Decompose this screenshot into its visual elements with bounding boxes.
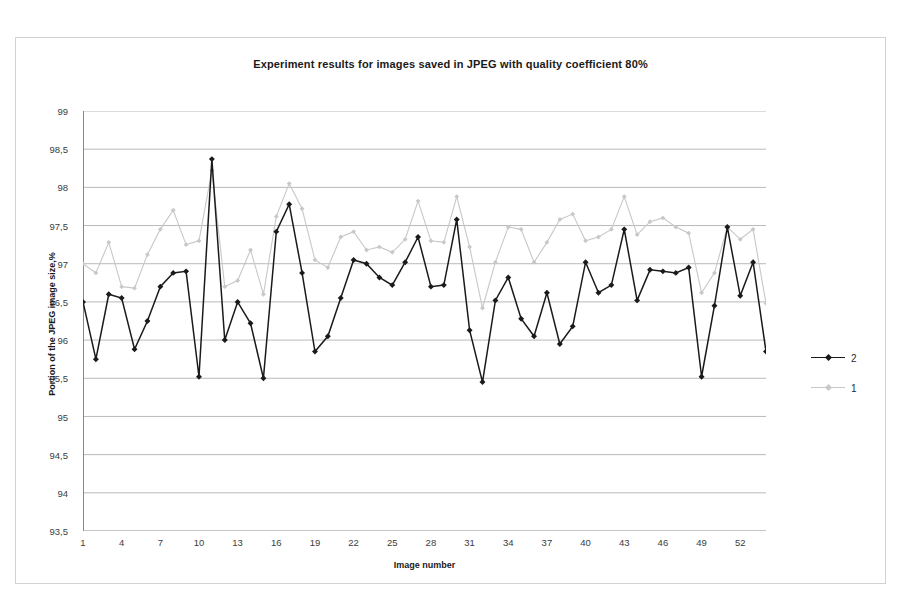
data-point [300, 206, 305, 211]
x-axis-title: Image number [83, 560, 766, 570]
data-point [235, 278, 240, 283]
data-point [441, 240, 446, 245]
chart-frame: Experiment results for images saved in J… [15, 37, 886, 584]
plot-area [83, 111, 766, 531]
x-tick-label: 7 [158, 537, 163, 548]
y-tick-label: 96 [57, 335, 68, 346]
data-point [106, 291, 112, 297]
data-point [106, 240, 111, 245]
data-point [132, 346, 138, 352]
data-point [467, 245, 472, 250]
x-tick-label: 28 [426, 537, 437, 548]
data-point [222, 284, 227, 289]
data-point [647, 267, 653, 273]
data-point [261, 292, 266, 297]
data-point [93, 356, 99, 362]
data-point [622, 194, 627, 199]
data-point [429, 238, 434, 243]
x-tick-label: 49 [696, 537, 707, 548]
y-tick-label: 97 [57, 258, 68, 269]
x-tick-label: 22 [348, 537, 359, 548]
data-point [660, 268, 666, 274]
y-axis-tick-labels: 9998,59897,59796,59695,59594,59493,5 [8, 111, 68, 531]
data-point [325, 265, 330, 270]
x-tick-label: 4 [119, 537, 124, 548]
data-point [260, 375, 266, 381]
data-point [673, 270, 679, 276]
series-2 [83, 156, 766, 385]
data-point [144, 318, 150, 324]
legend-label: 2 [851, 353, 857, 364]
data-point [287, 181, 292, 186]
data-point [544, 290, 550, 296]
data-point [634, 297, 640, 303]
data-point [274, 214, 279, 219]
legend-item-1[interactable]: 1 [811, 373, 881, 403]
y-tick-label: 93,5 [50, 526, 69, 537]
data-point [415, 234, 421, 240]
legend-item-2[interactable]: 2 [811, 343, 881, 373]
y-tick-label: 94,5 [50, 449, 69, 460]
data-point [609, 227, 614, 232]
data-point [402, 259, 408, 265]
data-point [763, 349, 766, 355]
data-point [699, 374, 705, 380]
y-tick-label: 97,5 [50, 220, 69, 231]
legend-swatch-icon [811, 353, 845, 363]
data-point [248, 248, 253, 253]
data-point [313, 258, 318, 263]
data-point [596, 235, 601, 240]
data-point [583, 259, 589, 265]
data-point [145, 252, 150, 257]
x-tick-label: 10 [194, 537, 205, 548]
data-point [570, 212, 575, 217]
data-point [338, 235, 343, 240]
data-point [286, 201, 292, 207]
data-point [338, 295, 344, 301]
data-point [416, 199, 421, 204]
x-tick-label: 16 [271, 537, 282, 548]
data-point [377, 245, 382, 250]
data-point [480, 306, 485, 311]
data-point [83, 299, 86, 305]
data-point [441, 282, 447, 288]
data-point [750, 259, 756, 265]
chart-canvas [83, 111, 766, 531]
data-point [132, 286, 137, 291]
data-point [209, 156, 215, 162]
data-point [686, 231, 691, 236]
data-point [711, 303, 717, 309]
data-point [351, 257, 357, 263]
data-point [454, 194, 459, 199]
data-point [119, 284, 124, 289]
y-tick-label: 98 [57, 182, 68, 193]
x-tick-label: 13 [232, 537, 243, 548]
data-point [222, 337, 228, 343]
data-point [583, 238, 588, 243]
series-line [83, 171, 766, 308]
chart-title: Experiment results for images saved in J… [16, 58, 885, 70]
x-tick-label: 46 [658, 537, 669, 548]
y-tick-label: 99 [57, 106, 68, 117]
x-axis-tick-labels: 147101316192225283134374043464952 [83, 537, 766, 553]
data-point [492, 297, 498, 303]
y-tick-label: 95,5 [50, 373, 69, 384]
x-tick-label: 37 [542, 537, 553, 548]
data-point [505, 275, 511, 281]
legend-swatch-icon [811, 383, 845, 393]
y-tick-label: 94 [57, 487, 68, 498]
data-point [196, 374, 202, 380]
data-point [467, 327, 473, 333]
data-point [119, 295, 125, 301]
legend-label: 1 [851, 383, 857, 394]
x-tick-label: 31 [464, 537, 475, 548]
data-point [428, 284, 434, 290]
x-tick-label: 43 [619, 537, 630, 548]
data-point [519, 227, 524, 232]
series-1 [83, 168, 766, 310]
x-tick-label: 34 [503, 537, 514, 548]
x-tick-label: 25 [387, 537, 398, 548]
y-tick-label: 96,5 [50, 296, 69, 307]
y-tick-label: 95 [57, 411, 68, 422]
x-tick-label: 19 [310, 537, 321, 548]
